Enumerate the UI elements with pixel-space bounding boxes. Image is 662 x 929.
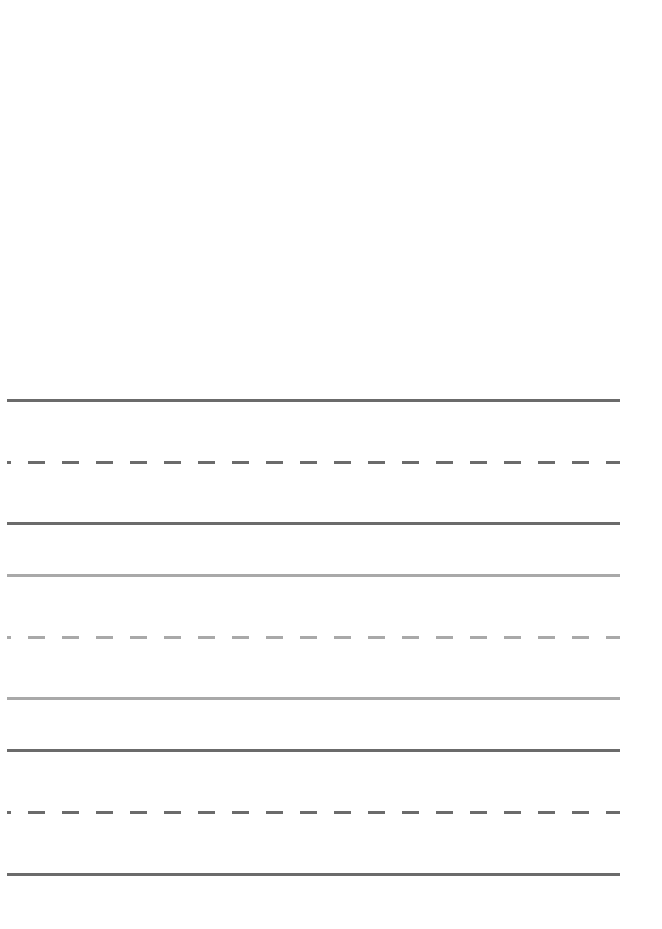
baseline (7, 873, 620, 876)
midline-dashed (7, 461, 620, 464)
midline-dashed (7, 811, 620, 814)
baseline (7, 522, 620, 525)
baseline (7, 697, 620, 700)
top-line (7, 399, 620, 402)
top-line (7, 574, 620, 577)
top-line (7, 749, 620, 752)
midline-dashed (7, 636, 620, 639)
